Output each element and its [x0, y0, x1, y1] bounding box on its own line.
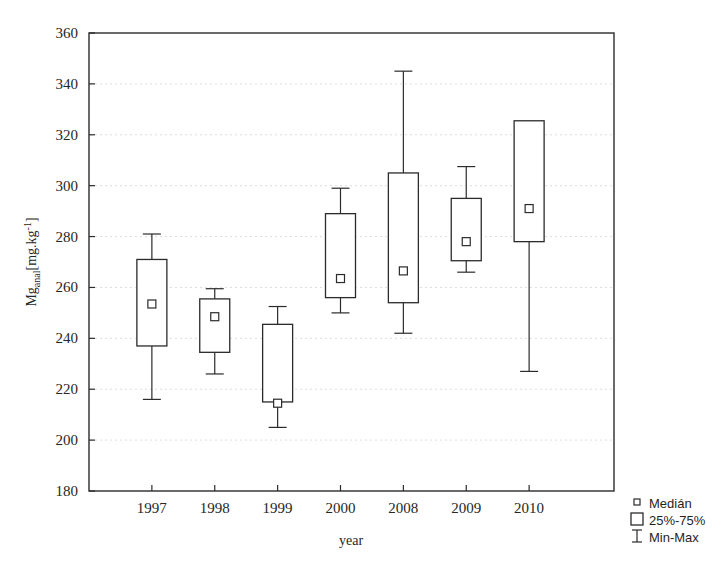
- x-tick-label: 2000: [325, 500, 355, 516]
- y-axis-title-exponent: -1: [22, 222, 33, 230]
- chart-canvas: 180200220240260280300320340360 199719981…: [0, 0, 726, 568]
- median-marker: [399, 267, 407, 275]
- y-tick-label: 300: [56, 178, 79, 194]
- y-axis-title-unit: [mg.kg: [24, 230, 39, 270]
- y-tick-label: 220: [56, 381, 79, 397]
- chart-background: [0, 0, 726, 568]
- y-tick-label: 240: [56, 330, 79, 346]
- quartile-box: [388, 173, 418, 303]
- quartile-box: [451, 198, 481, 260]
- x-tick-label: 1997: [137, 500, 168, 516]
- y-tick-label: 360: [56, 25, 79, 41]
- x-tick-label: 2010: [514, 500, 544, 516]
- median-marker: [525, 205, 533, 213]
- y-tick-label: 260: [56, 279, 79, 295]
- median-marker: [211, 313, 219, 321]
- x-tick-label: 2008: [388, 500, 418, 516]
- median-marker: [274, 399, 282, 407]
- box-plot-chart: 180200220240260280300320340360 199719981…: [0, 0, 726, 568]
- y-axis-title-subscript: anal: [31, 270, 42, 287]
- x-axis-title: year: [339, 533, 363, 548]
- quartile-box: [263, 324, 293, 402]
- y-tick-label: 320: [56, 127, 79, 143]
- quartile-box: [514, 121, 544, 242]
- x-tick-label: 1999: [263, 500, 293, 516]
- quartile-box: [325, 214, 355, 298]
- y-axis-title-bracket: ]: [24, 217, 39, 222]
- x-tick-label: 1998: [200, 500, 230, 516]
- legend-label: Medián: [649, 496, 692, 511]
- legend-median-icon: [634, 499, 640, 505]
- median-marker: [336, 275, 344, 283]
- y-tick-label: 180: [56, 483, 79, 499]
- y-axis-title-main: Mg: [24, 287, 39, 306]
- y-tick-label: 340: [56, 76, 79, 92]
- legend-label: 25%-75%: [649, 513, 706, 528]
- median-marker: [462, 238, 470, 246]
- x-tick-label: 2009: [451, 500, 481, 516]
- y-tick-label: 200: [56, 432, 79, 448]
- legend-label: Min-Max: [649, 530, 699, 545]
- median-marker: [148, 300, 156, 308]
- legend-box-icon: [631, 513, 643, 525]
- y-tick-label: 280: [56, 229, 79, 245]
- quartile-box: [200, 299, 230, 352]
